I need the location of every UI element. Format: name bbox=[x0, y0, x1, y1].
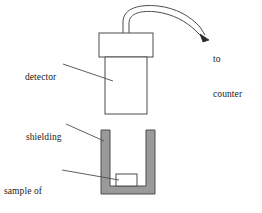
label-shielding-text: shielding bbox=[26, 132, 62, 142]
sample-box bbox=[116, 174, 137, 186]
cable bbox=[123, 6, 200, 33]
label-to-counter-line1: to bbox=[213, 54, 242, 66]
label-shielding: shielding bbox=[16, 120, 62, 155]
label-to-counter: to counter bbox=[213, 31, 242, 123]
label-to-counter-line2: counter bbox=[213, 89, 242, 101]
detector-body bbox=[105, 57, 147, 114]
diagram-figure: detector shielding sample of radioactive… bbox=[0, 0, 262, 213]
detector-cap bbox=[99, 33, 153, 57]
leader-shielding bbox=[66, 124, 104, 141]
signal-arrow bbox=[196, 27, 209, 42]
label-detector: detector bbox=[15, 60, 56, 95]
label-sample-line1: sample of bbox=[4, 186, 47, 198]
label-sample: sample of radioactive material bbox=[4, 163, 47, 213]
label-detector-text: detector bbox=[25, 72, 56, 82]
